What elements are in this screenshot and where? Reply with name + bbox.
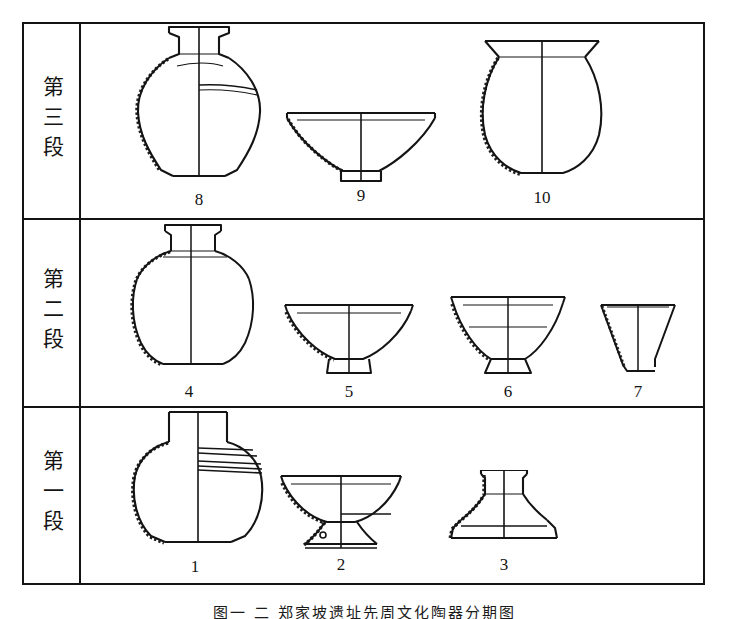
vessel-10-shading [482, 58, 520, 174]
vessel-1-drawing [125, 406, 265, 556]
phase-label-cell-first: 第一段 [24, 408, 81, 583]
figure-caption: 图一 二 郑家坡遗址先周文化陶器分期图 [0, 601, 729, 619]
vessel-2-number: 2 [337, 556, 346, 573]
vessel-8-decor-band [199, 85, 257, 95]
vessel-8-shading [137, 59, 168, 171]
vessel-9-shading [288, 119, 344, 172]
pottery-typology-figure: 第三段 [0, 0, 729, 619]
vessel-10-drawing [475, 35, 609, 187]
vessel-6-number: 6 [504, 383, 513, 400]
vessel-1-decor-bands [198, 448, 262, 473]
phase-row-first-content: 1 [81, 408, 703, 583]
vessel-2-pedestal-hole [320, 532, 326, 538]
phase-label-third: 第三段 [41, 76, 62, 166]
phase-row-third: 第三段 [24, 24, 703, 220]
vessel-5-shading [286, 312, 334, 360]
vessel-6: 6 [447, 289, 569, 400]
phase-label-second: 第二段 [41, 268, 62, 358]
vessel-8-drawing [133, 24, 265, 189]
vessel-8: 8 [133, 24, 265, 208]
phase-label-cell-third: 第三段 [24, 24, 81, 218]
vessel-8-number: 8 [195, 191, 204, 208]
vessel-10-number: 10 [534, 189, 551, 206]
vessel-3-drawing [439, 470, 569, 554]
vessel-4: 4 [121, 221, 257, 400]
vessel-2-drawing [275, 470, 407, 554]
vessel-7: 7 [597, 297, 679, 400]
vessel-4-drawing [121, 221, 257, 381]
vessel-1-shading [133, 443, 168, 543]
phase-row-third-content: 8 [81, 24, 703, 218]
vessel-4-shading [132, 252, 170, 365]
vessel-6-drawing [447, 289, 569, 381]
vessel-7-number: 7 [634, 383, 643, 400]
vessel-2: 2 [275, 470, 407, 573]
vessel-4-number: 4 [185, 383, 194, 400]
phase-label-cell-second: 第二段 [24, 220, 81, 406]
vessel-3: 3 [439, 470, 569, 573]
vessel-3-number: 3 [500, 556, 509, 573]
vessel-10: 10 [475, 35, 609, 206]
vessel-5: 5 [281, 295, 417, 400]
vessel-1: 1 [125, 406, 265, 575]
vessel-5-drawing [281, 295, 417, 381]
vessel-1-number: 1 [191, 558, 200, 575]
typology-table: 第三段 [22, 22, 705, 585]
vessel-9-number: 9 [357, 187, 366, 204]
phase-row-second: 第二段 [24, 220, 703, 408]
vessel-5-number: 5 [345, 383, 354, 400]
vessel-9: 9 [283, 103, 439, 204]
vessel-7-shading [602, 306, 624, 366]
phase-label-first: 第一段 [41, 450, 62, 540]
vessel-9-drawing [283, 103, 439, 185]
phase-row-second-content: 4 [81, 220, 703, 406]
vessel-7-drawing [597, 297, 679, 381]
phase-row-first: 第一段 [24, 408, 703, 583]
vessel-6-shading [452, 304, 490, 360]
vessel-3-shading [450, 475, 484, 539]
